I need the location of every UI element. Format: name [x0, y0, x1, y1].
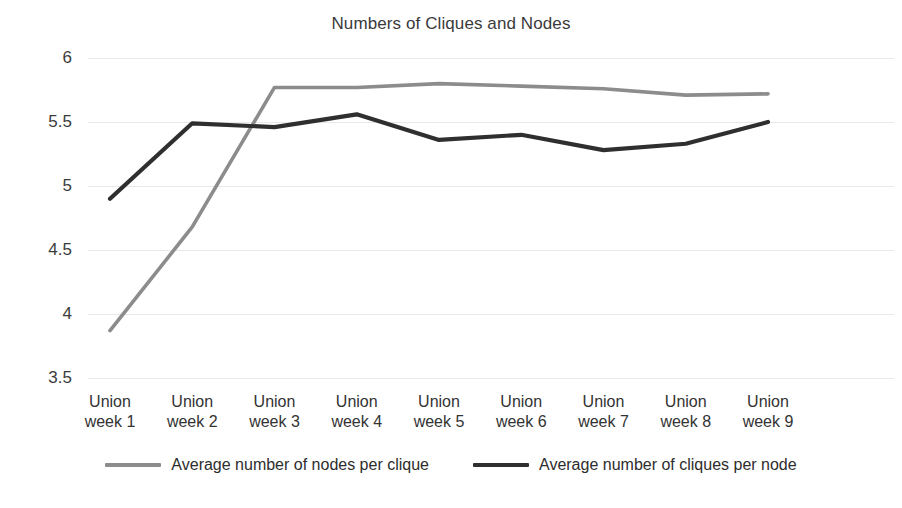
x-axis-tick-label: Unionweek 4	[331, 392, 382, 432]
x-axis-tick-label: Unionweek 1	[85, 392, 136, 432]
x-axis-tick-label: Unionweek 9	[743, 392, 794, 432]
y-axis-tick-label: 3.5	[48, 368, 72, 388]
gridline	[88, 378, 894, 379]
y-axis-tick-label: 5.5	[48, 112, 72, 132]
y-axis-tick-label: 6	[63, 48, 72, 68]
x-axis-tick-label: Unionweek 7	[578, 392, 629, 432]
x-axis-tick-label-line: week 4	[331, 412, 382, 432]
x-axis-tick-label-line: Union	[660, 392, 711, 412]
series-lines	[88, 58, 894, 378]
x-axis-tick-label-line: Union	[249, 392, 300, 412]
legend-item[interactable]: Average number of nodes per clique	[105, 456, 429, 474]
chart-title: Numbers of Cliques and Nodes	[0, 14, 902, 34]
x-axis-tick-label: Unionweek 5	[414, 392, 465, 432]
x-axis-tick-label-line: week 5	[414, 412, 465, 432]
y-axis-tick-label: 4	[63, 304, 72, 324]
x-axis-tick-label-line: Union	[331, 392, 382, 412]
x-axis-tick-label-line: Union	[496, 392, 547, 412]
y-axis-labels: 3.544.555.56	[0, 58, 80, 378]
series-line	[110, 84, 768, 331]
y-axis-tick-label: 5	[63, 176, 72, 196]
chart-legend: Average number of nodes per cliqueAverag…	[0, 456, 902, 474]
x-axis-tick-label-line: week 3	[249, 412, 300, 432]
x-axis-tick-label-line: week 7	[578, 412, 629, 432]
x-axis-tick-label-line: Union	[743, 392, 794, 412]
legend-line-icon	[105, 463, 161, 467]
x-axis-tick-label-line: week 6	[496, 412, 547, 432]
series-line	[110, 114, 768, 198]
x-axis-tick-label: Unionweek 2	[167, 392, 218, 432]
x-axis-tick-label: Unionweek 3	[249, 392, 300, 432]
x-axis-tick-label-line: week 2	[167, 412, 218, 432]
x-axis-tick-label-line: Union	[578, 392, 629, 412]
legend-item[interactable]: Average number of cliques per node	[473, 456, 797, 474]
legend-label: Average number of nodes per clique	[171, 456, 429, 474]
x-axis-tick-label-line: Union	[414, 392, 465, 412]
x-axis-tick-label-line: week 8	[660, 412, 711, 432]
x-axis-tick-label-line: week 9	[743, 412, 794, 432]
legend-label: Average number of cliques per node	[539, 456, 797, 474]
x-axis-tick-label-line: Union	[167, 392, 218, 412]
chart-container: Numbers of Cliques and Nodes 3.544.555.5…	[0, 0, 902, 508]
x-axis-labels: Unionweek 1Unionweek 2Unionweek 3Unionwe…	[88, 392, 894, 442]
x-axis-tick-label-line: week 1	[85, 412, 136, 432]
plot-area	[88, 58, 894, 378]
x-axis-tick-label: Unionweek 8	[660, 392, 711, 432]
y-axis-tick-label: 4.5	[48, 240, 72, 260]
x-axis-tick-label-line: Union	[85, 392, 136, 412]
x-axis-tick-label: Unionweek 6	[496, 392, 547, 432]
legend-line-icon	[473, 463, 529, 467]
